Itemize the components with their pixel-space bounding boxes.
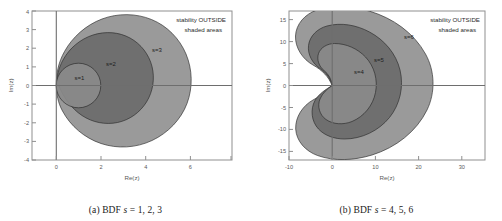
plot-a-xtick-1: 2 [99,164,102,170]
plot-a-ytick-2: -2 [24,120,29,126]
plot-b-xtick-0: -10 [285,164,293,170]
caption-a: (a) BDF s = 1, 2, 3 [0,205,251,215]
plot-a-xtick-3: 6 [189,164,192,170]
plot-a-label-s2: s=2 [106,61,117,67]
plot-a-note-line2: shaded areas [185,26,223,33]
caption-b-rest: = 4, 5, 6 [381,205,413,215]
plot-a-note-line1: stability OUTSIDE [176,16,226,23]
figure-bdf-stability-regions: 0 2 4 6 -4 -3 -2 -1 0 1 [0,0,502,221]
caption-a-var: s [123,205,127,215]
panel-bdf-123: 0 2 4 6 -4 -3 -2 -1 0 1 [0,0,251,221]
panel-bdf-456: -10 0 10 20 30 -15 -10 -5 0 5 10 [251,0,502,221]
plot-a-ytick-7: 3 [26,27,29,33]
plot-a-ylabel: Im(z) [7,78,14,92]
plot-b-ytick-5: 10 [280,39,286,45]
plot-b-ytick-0: -15 [278,148,286,154]
plot-a-label-s1: s=1 [75,75,86,81]
plot-a-ytick-0: -4 [24,157,29,163]
plot-b-ytick-3: 0 [283,83,286,89]
plot-b-ytick-4: 5 [283,61,286,67]
plot-a-xtick-2: 4 [144,164,147,170]
plot-a-xtick-0: 0 [55,164,58,170]
plot-b-label-s4: s=4 [354,69,365,75]
plot-b-xtick-4: 30 [459,164,465,170]
plot-b-svg: -10 0 10 20 30 -15 -10 -5 0 5 10 [251,0,502,185]
plot-b-xlabel: Re(z) [379,174,394,181]
caption-b-var: s [375,205,379,215]
plot-a-xlabel: Re(z) [124,174,139,181]
caption-b-prefix: (b) BDF [340,205,373,215]
plot-b-ylabel: Im(z) [264,78,271,92]
plot-b-label-s5: s=5 [374,57,385,63]
plot-a-svg: 0 2 4 6 -4 -3 -2 -1 0 1 [0,0,251,185]
plot-b-ytick-6: 15 [280,17,286,23]
plot-b-xtick-1: 0 [331,164,334,170]
plot-b-xtick-2: 10 [372,164,378,170]
plot-b-ytick-1: -10 [278,126,286,132]
plot-a-ytick-8: 4 [26,9,29,15]
plot-b-ytick-2: -5 [281,105,286,111]
plot-b-note-line2: shaded areas [439,26,477,33]
plot-a-label-s3: s=3 [152,47,163,53]
plot-a-ytick-4: 0 [26,83,29,89]
plot-a-ytick-5: 1 [26,64,29,70]
plot-a-ytick-6: 2 [26,45,29,51]
plot-b-xtick-3: 20 [415,164,421,170]
plot-a-ytick-1: -3 [24,138,29,144]
caption-a-prefix: (a) BDF [89,205,121,215]
caption-b: (b) BDF s = 4, 5, 6 [251,205,502,215]
caption-a-rest: = 1, 2, 3 [130,205,162,215]
plot-a-ytick-3: -1 [24,101,29,107]
plot-b-label-s6: s=6 [404,34,415,40]
plot-b-note-line1: stability OUTSIDE [430,16,480,23]
